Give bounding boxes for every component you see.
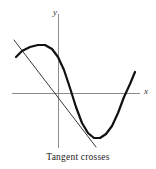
axes-group (12, 14, 140, 148)
figure-caption: Tangent crosses (0, 151, 156, 163)
data-group (14, 40, 135, 147)
function-curve (16, 45, 135, 138)
figure-root: y x Tangent crosses (0, 0, 156, 169)
plot-area: y x (0, 0, 156, 148)
tangent-line (14, 40, 96, 147)
y-axis-label: y (53, 8, 57, 17)
x-axis-label: x (144, 87, 148, 96)
plot-svg (0, 0, 156, 148)
